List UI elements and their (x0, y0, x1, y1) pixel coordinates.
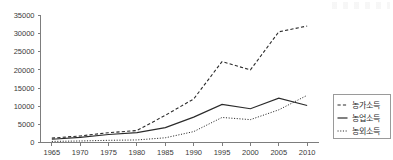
y-tick-label: 20000 (14, 66, 35, 75)
y-tick-label: 10000 (14, 102, 35, 111)
x-tick-label: 1985 (157, 148, 174, 157)
x-tick-label: 1995 (214, 148, 231, 157)
legend-label: 농업소득 (352, 114, 380, 123)
x-tick-label: 1970 (72, 148, 89, 157)
x-tick-label: 1965 (44, 148, 61, 157)
chart-legend: 농가소득농업소득농외소득 (334, 95, 391, 139)
legend-label: 농가소득 (352, 101, 380, 110)
x-tick-label: 2000 (242, 148, 259, 157)
y-tick-label: 0 (30, 138, 34, 147)
y-tick-label: 15000 (14, 84, 35, 93)
x-tick-label: 1980 (129, 148, 146, 157)
x-tick-label: 2005 (270, 148, 287, 157)
y-tick-label: 35000 (14, 11, 35, 20)
y-tick-label: 30000 (14, 29, 35, 38)
y-axis-tick-labels: 05000100001500020000250003000035000 (14, 11, 35, 147)
x-axis-tick-labels: 1965197019751980198519901995200020052010 (44, 148, 316, 157)
series-line-dashed (52, 26, 307, 138)
x-tick-label: 1990 (185, 148, 202, 157)
line-chart-figure: 05000100001500020000250003000035000 1965… (0, 0, 393, 160)
chart-canvas: 05000100001500020000250003000035000 1965… (0, 0, 393, 160)
data-series-group (52, 26, 307, 141)
x-tick-label: 1975 (100, 148, 117, 157)
legend-label: 농외소득 (352, 126, 380, 136)
y-tick-label: 5000 (18, 120, 35, 129)
series-line-solid (52, 98, 307, 139)
y-tick-label: 25000 (14, 47, 35, 56)
x-tick-label: 2010 (299, 148, 316, 157)
